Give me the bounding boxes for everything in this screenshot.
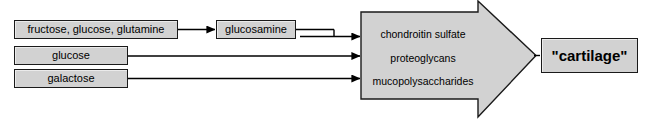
node-galactose-label: galactose	[47, 73, 94, 84]
node-galactose[interactable]: galactose	[14, 69, 128, 88]
node-glucose-label: glucose	[52, 50, 90, 61]
node-substrates-label: fructose, glucose, glutamine	[28, 24, 165, 35]
biosynthesis-pathway-diagram: fructose, glucose, glutamine glucose gal…	[0, 0, 645, 124]
node-glucosamine[interactable]: glucosamine	[216, 20, 296, 39]
node-glucose[interactable]: glucose	[14, 46, 128, 65]
node-substrates[interactable]: fructose, glucose, glutamine	[14, 20, 178, 39]
node-cartilage-label: "cartilage"	[552, 48, 628, 63]
product-label-chondroitin-sulfate: chondroitin sulfate	[364, 29, 482, 40]
product-label-proteoglycans: proteoglycans	[364, 53, 482, 64]
product-label-mucopolysaccharides: mucopolysaccharides	[364, 76, 482, 87]
node-cartilage[interactable]: "cartilage"	[541, 38, 638, 73]
node-glucosamine-label: glucosamine	[225, 24, 287, 35]
